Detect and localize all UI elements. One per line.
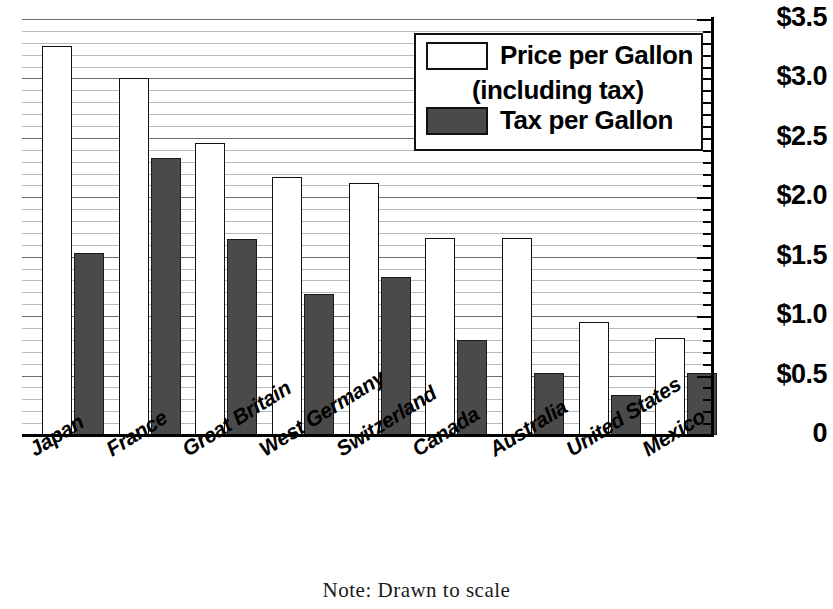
y-tick-minor: [703, 126, 714, 128]
y-tick-minor: [703, 280, 714, 282]
y-tick-major: [697, 435, 714, 437]
y-tick-major: [697, 257, 714, 259]
y-axis-label-35: $3.5: [735, 4, 827, 31]
legend-label-price: Price per Gallon: [500, 42, 693, 69]
y-tick-major: [697, 197, 714, 199]
y-tick-minor: [703, 233, 714, 235]
y-tick-minor: [703, 174, 714, 176]
legend-label-price-sublabel: (including tax): [472, 75, 644, 106]
legend-label-tax: Tax per Gallon: [500, 107, 673, 134]
bar-japan-price: [42, 46, 72, 435]
y-axis-label-0: 0: [735, 420, 827, 447]
y-axis-label-05: $0.5: [735, 361, 827, 388]
y-tick-minor: [703, 328, 714, 330]
y-tick-minor: [703, 399, 714, 401]
y-tick-minor: [703, 162, 714, 164]
y-tick-minor: [703, 221, 714, 223]
chart-legend: Price per Gallon (including tax) Tax per…: [414, 33, 703, 151]
y-tick-minor: [703, 43, 714, 45]
y-tick-minor: [703, 387, 714, 389]
y-tick-major: [697, 376, 714, 378]
y-tick-minor: [703, 245, 714, 247]
legend-entry-price: Price per Gallon: [426, 42, 693, 70]
bar-france-price: [119, 78, 149, 435]
y-tick-minor: [703, 340, 714, 342]
chart-note: Note: Drawn to scale: [0, 578, 833, 603]
y-tick-minor: [703, 304, 714, 306]
y-tick-minor: [703, 292, 714, 294]
y-tick-minor: [703, 31, 714, 33]
y-tick-minor: [703, 209, 714, 211]
y-tick-minor: [703, 67, 714, 69]
y-tick-minor: [703, 114, 714, 116]
y-tick-minor: [703, 55, 714, 57]
bar-great-britain-price: [195, 143, 225, 435]
y-tick-minor: [703, 102, 714, 104]
y-tick-major: [697, 19, 714, 21]
y-tick-major: [697, 316, 714, 318]
y-tick-minor: [703, 185, 714, 187]
bar-japan-tax: [74, 253, 104, 435]
legend-entry-tax: Tax per Gallon: [426, 107, 673, 135]
y-tick-minor: [703, 364, 714, 366]
y-axis-label-10: $1.0: [735, 301, 827, 328]
legend-swatch-price-icon: [426, 42, 488, 70]
y-axis-label-15: $1.5: [735, 242, 827, 269]
y-tick-minor: [703, 150, 714, 152]
y-tick-minor: [703, 269, 714, 271]
bar-australia-price: [502, 238, 532, 435]
bar-france-tax: [151, 158, 181, 435]
y-axis-label-20: $2.0: [735, 182, 827, 209]
y-axis-label-30: $3.0: [735, 63, 827, 90]
gasoline-price-bar-chart: $3.5$3.0$2.5$2.0$1.5$1.0$0.50 JapanFranc…: [0, 0, 833, 609]
y-tick-minor: [703, 411, 714, 413]
y-tick-minor: [703, 352, 714, 354]
y-tick-minor: [703, 90, 714, 92]
legend-swatch-tax-icon: [426, 107, 488, 135]
y-axis-label-25: $2.5: [735, 123, 827, 150]
